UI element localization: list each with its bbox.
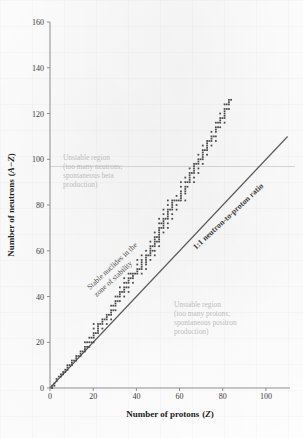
nuclide-point [187, 186, 189, 188]
nuclide-point [193, 170, 195, 172]
nuclide-point [167, 218, 169, 220]
nuclide-point [180, 190, 182, 192]
nuclide-point [54, 383, 56, 385]
annotation-ratio-label: 1:1 neutron-to-proton ratio [191, 181, 265, 251]
nuclide-point [128, 277, 130, 279]
nuclide-point [215, 126, 217, 128]
nuclide-point [180, 193, 182, 195]
nuclide-point [200, 158, 202, 160]
anno-line: 1:1 neutron-to-proton ratio [191, 181, 265, 251]
nuclide-point [167, 200, 169, 202]
nuclide-point [93, 332, 95, 334]
anno-line: spontaneous positron [174, 318, 237, 327]
nuclide-point [198, 163, 200, 165]
nuclide-point [110, 305, 112, 307]
nuclide-point [75, 357, 77, 359]
nuclide-point [93, 335, 95, 337]
nuclide-point [150, 250, 152, 252]
nuclide-point [117, 296, 119, 298]
nuclide-point [167, 227, 169, 229]
nuclide-point [154, 236, 156, 238]
nuclide-point [176, 195, 178, 197]
nuclide-point [106, 323, 108, 325]
nuclide-point [67, 364, 69, 366]
y-axis-title: Number of neutrons(A−Z) [6, 153, 16, 257]
nuclide-point [180, 197, 182, 199]
nuclide-point [167, 204, 169, 206]
nuclide-point [78, 355, 80, 357]
nuclide-point [121, 291, 123, 293]
nuclide-point [93, 341, 95, 343]
annotation-unstable-protons: Unstable region (too many protons; spont… [174, 300, 237, 336]
nuclide-point [128, 280, 130, 282]
nuclide-point [158, 234, 160, 236]
nuclide-point [91, 341, 93, 343]
nuclide-point [56, 378, 58, 380]
nuclide-point [58, 376, 60, 378]
nuclide-point [202, 154, 204, 156]
nuclide-point [226, 108, 228, 110]
nuclide-point [150, 245, 152, 247]
nuclide-point [97, 328, 99, 330]
nuclide-point [158, 238, 160, 240]
anno-line: (too many neutrons; [63, 162, 123, 171]
nuclide-point [193, 181, 195, 183]
nuclide-point [80, 353, 82, 355]
nuclide-point [84, 346, 86, 348]
nuclide-point [152, 245, 154, 247]
x-tick-label: 40 [132, 392, 140, 401]
nuclide-point [189, 172, 191, 174]
nuclide-point [193, 172, 195, 174]
nuclide-point [167, 213, 169, 215]
nuclide-point [180, 181, 182, 183]
nuclide-point [97, 323, 99, 325]
nuclide-point [132, 275, 134, 277]
nuclide-point [167, 211, 169, 213]
nuclide-point [184, 177, 186, 179]
nuclide-point [67, 369, 69, 371]
nuclide-point [176, 200, 178, 202]
nuclide-point [211, 138, 213, 140]
nuclide-point [211, 131, 213, 133]
nuclide-point [88, 341, 90, 343]
figure-page: 0 20 40 60 80 100 0 20 40 60 80 100 120 … [0, 0, 303, 438]
nuclide-point [163, 220, 165, 222]
nuclide-point [115, 309, 117, 311]
nuclide-point [141, 254, 143, 256]
nuclide-point [202, 163, 204, 165]
nuclide-point [224, 113, 226, 115]
nuclide-point [60, 376, 62, 378]
nuclide-point [163, 218, 165, 220]
nuclide-point [132, 277, 134, 279]
nuclide-point [141, 273, 143, 275]
nuclide-chart: 0 20 40 60 80 100 0 20 40 60 80 100 120 … [0, 0, 303, 438]
nuclide-point [84, 348, 86, 350]
nuclide-point [69, 364, 71, 366]
nuclide-point [158, 241, 160, 243]
nuclide-point [119, 293, 121, 295]
nuclide-point [115, 300, 117, 302]
nuclide-point [99, 323, 101, 325]
anno-line: spontaneous beta [63, 171, 114, 180]
nuclide-point [136, 259, 138, 261]
x-tick-labels: 0 20 40 60 80 100 [48, 392, 272, 401]
nuclide-point [211, 140, 213, 142]
nuclide-point [171, 213, 173, 215]
nuclide-point [193, 163, 195, 165]
nuclide-point [110, 314, 112, 316]
nuclide-point [123, 282, 125, 284]
nuclide-point [119, 296, 121, 298]
nuclide-point [97, 330, 99, 332]
nuclide-point [95, 332, 97, 334]
nuclide-point [158, 232, 160, 234]
nuclide-point [123, 291, 125, 293]
nuclide-point [180, 200, 182, 202]
nuclide-point [189, 177, 191, 179]
nuclide-point [217, 126, 219, 128]
nuclide-point [156, 236, 158, 238]
nuclide-point [102, 328, 104, 330]
nuclide-point [215, 136, 217, 138]
nuclide-point [145, 261, 147, 263]
nuclide-point [115, 305, 117, 307]
annotation-unstable-neutrons: Unstable region (too many neutrons; spon… [63, 153, 123, 189]
